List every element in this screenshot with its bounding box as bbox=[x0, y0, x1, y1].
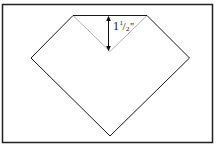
frame-border bbox=[3, 5, 213, 143]
measurement-arrow bbox=[106, 16, 111, 51]
arrow-head-up-icon bbox=[106, 16, 111, 21]
measurement-unit: " bbox=[130, 21, 134, 32]
measurement-whole: 1 bbox=[113, 19, 119, 33]
measurement-label: 1 1 / 2 " bbox=[113, 19, 134, 33]
diagram-canvas: 1 1 / 2 " bbox=[0, 0, 216, 146]
pentagon-outline bbox=[31, 16, 190, 137]
